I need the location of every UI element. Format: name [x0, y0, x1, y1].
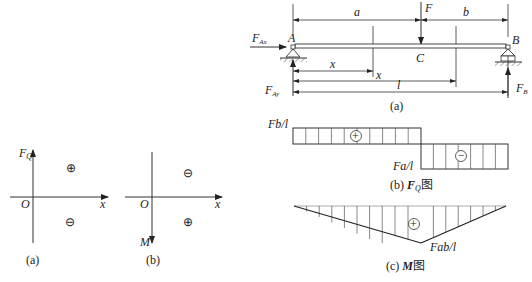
dim-x1-label: x	[329, 57, 336, 71]
reaction-fay-label: FAy	[264, 83, 280, 98]
shear-force-diagram: + − Fb/l Fa/l (b) FQ图	[267, 117, 508, 193]
load-label: F	[424, 1, 433, 15]
caption-shear: (b) FQ图	[390, 178, 433, 193]
negative-sign-icon: ⊖	[65, 215, 75, 229]
negative-sign-icon: ⊖	[183, 166, 193, 180]
shear-top-value: Fb/l	[267, 117, 289, 131]
dim-l-label: l	[397, 78, 401, 92]
moment-sign-convention: M O x ⊖ ⊕ (b)	[125, 152, 222, 267]
negative-sign-icon: −	[458, 148, 465, 162]
x-axis-label: x	[99, 197, 106, 211]
shear-sign-convention: FQ O x ⊕ ⊖ (a)	[10, 146, 108, 267]
fq-axis-label: FQ	[18, 146, 32, 161]
positive-sign-icon: ⊕	[66, 161, 76, 175]
beam	[295, 44, 506, 48]
caption-a: (a)	[26, 253, 39, 267]
origin-label: O	[140, 197, 149, 211]
moment-peak-value: Fab/l	[429, 240, 457, 254]
positive-sign-icon: +	[352, 129, 359, 143]
bending-moment-diagram: + Fab/l (c) M图	[294, 206, 506, 273]
caption-beam: (a)	[390, 99, 403, 113]
m-axis-label: M	[139, 235, 151, 249]
x-axis-label: x	[214, 197, 221, 211]
point-c-label: C	[416, 51, 425, 65]
caption-b: (b)	[146, 253, 160, 267]
dim-a-label: a	[354, 5, 360, 19]
diagram-canvas: FQ O x ⊕ ⊖ (a) M O x ⊖ ⊕ (b) a b F C	[0, 0, 532, 282]
support-a-label: A	[287, 31, 296, 45]
dim-b-label: b	[463, 5, 469, 19]
origin-label: O	[21, 197, 30, 211]
reaction-fax-label: FAx	[251, 31, 268, 46]
shear-bottom-value: Fa/l	[392, 159, 414, 173]
positive-sign-icon: ⊕	[183, 215, 193, 229]
positive-sign-icon: +	[410, 217, 417, 231]
reaction-fb-label: FB	[515, 81, 528, 96]
caption-moment: (c) M图	[386, 259, 425, 273]
beam-diagram: a b F C A B FAx FAy FB	[250, 1, 528, 113]
dim-x2-label: x	[375, 68, 382, 82]
support-b-label: B	[512, 33, 520, 47]
